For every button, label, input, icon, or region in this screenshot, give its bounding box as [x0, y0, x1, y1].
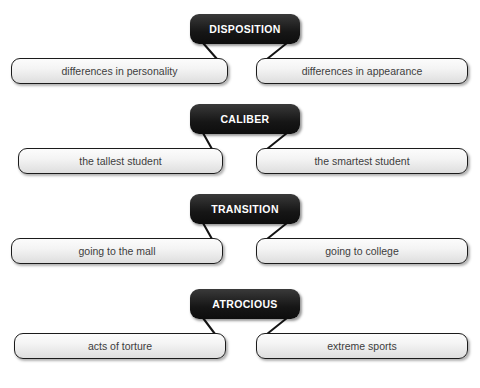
connector-right [267, 133, 287, 149]
term-group: TRANSITIONgoing to the mallgoing to coll… [0, 194, 480, 284]
example-box-right[interactable]: extreme sports [256, 333, 468, 359]
term-label: ATROCIOUS [212, 298, 277, 310]
term-capsule[interactable]: TRANSITION [190, 194, 300, 224]
example-label: the smartest student [314, 155, 409, 167]
connector-left [203, 318, 215, 334]
example-box-right[interactable]: differences in appearance [256, 58, 468, 84]
term-capsule[interactable]: ATROCIOUS [190, 289, 300, 319]
term-capsule[interactable]: DISPOSITION [190, 14, 300, 44]
term-group: CALIBERthe tallest studentthe smartest s… [0, 104, 480, 194]
term-group: ATROCIOUSacts of tortureextreme sports [0, 289, 480, 379]
connector-left [203, 223, 212, 239]
term-label: DISPOSITION [209, 23, 281, 35]
example-box-left[interactable]: the tallest student [18, 148, 223, 174]
example-box-right[interactable]: going to college [256, 238, 468, 264]
example-label: extreme sports [327, 340, 396, 352]
connector-right [267, 223, 287, 239]
vocabulary-diagram: DISPOSITIONdifferences in personalitydif… [0, 0, 480, 388]
term-label: TRANSITION [211, 203, 279, 215]
term-capsule[interactable]: CALIBER [190, 104, 300, 134]
example-box-left[interactable]: acts of torture [14, 333, 226, 359]
example-label: differences in appearance [302, 65, 423, 77]
example-label: going to the mall [78, 245, 155, 257]
example-box-left[interactable]: differences in personality [11, 58, 228, 84]
example-label: the tallest student [79, 155, 161, 167]
connector-left [203, 43, 217, 59]
example-box-right[interactable]: the smartest student [256, 148, 468, 174]
example-label: acts of torture [88, 340, 152, 352]
connector-left [203, 133, 212, 149]
example-box-left[interactable]: going to the mall [11, 238, 223, 264]
term-group: DISPOSITIONdifferences in personalitydif… [0, 14, 480, 104]
example-label: differences in personality [62, 65, 178, 77]
example-label: going to college [325, 245, 399, 257]
term-label: CALIBER [220, 113, 269, 125]
connector-right [267, 318, 287, 334]
connector-right [267, 43, 287, 59]
